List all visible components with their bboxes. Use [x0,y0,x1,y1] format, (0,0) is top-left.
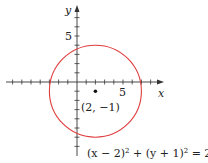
equation-lhs1: (x − 2) [87,147,125,160]
coordinate-plane: y 5 5 x (2, −1) (x − 2)2 + (y + 1)2 = 25 [0,0,208,163]
equation-plus: + (y + 1) [129,147,183,160]
center-point [94,89,98,93]
x-axis-arrow-icon [157,80,164,85]
equation-rhs: = 25 [188,147,208,160]
x-tick-label-5: 5 [119,86,126,99]
y-tick-label-5: 5 [65,30,72,43]
y-axis-arrow-icon [75,5,80,12]
circle-equation: (x − 2)2 + (y + 1)2 = 25 [87,147,208,160]
x-axis-label: x [158,87,165,100]
y-axis-label: y [64,4,72,17]
center-point-label: (2, −1) [81,101,120,114]
